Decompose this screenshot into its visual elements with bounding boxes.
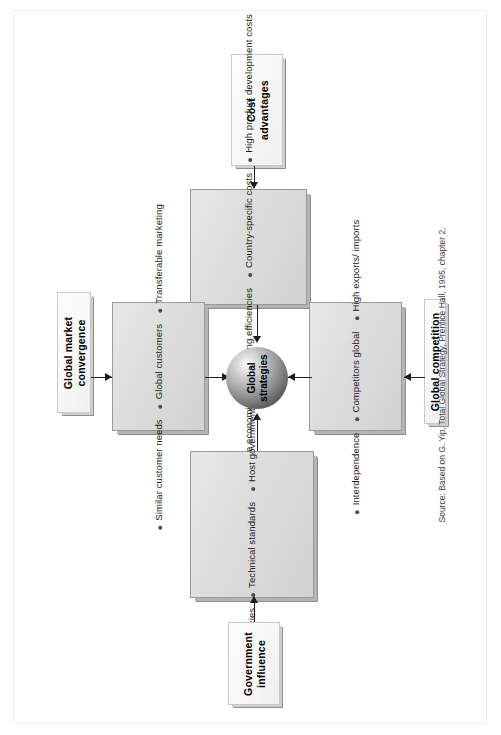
driver-panel-global-competition: Interdependence Competitors global High … bbox=[309, 302, 402, 431]
list-item: High product development costs bbox=[243, 14, 255, 162]
arrowhead-government-to-panel bbox=[250, 596, 258, 603]
bullet-icon bbox=[251, 487, 255, 491]
bullet-icon bbox=[355, 417, 359, 421]
list-item: Similar customer needs bbox=[153, 419, 165, 529]
driver-label-cost-advantages: Cost advantages bbox=[231, 54, 283, 166]
driver-panel-global-market-convergence: Similar customer needs Global customers … bbox=[112, 302, 205, 431]
list-item: High exports/ imports bbox=[350, 219, 362, 320]
list-item: Competitors global bbox=[350, 331, 362, 421]
driver-label-text-government-influence: Government influence bbox=[242, 632, 267, 696]
list-item: Technical standards bbox=[246, 502, 258, 597]
bullet-icon bbox=[158, 525, 162, 529]
driver-items-global-market-convergence: Similar customer needs Global customers … bbox=[153, 204, 165, 530]
list-item: Country-specific costs bbox=[243, 173, 255, 277]
bullet-icon bbox=[248, 273, 252, 277]
driver-label-text-global-market-convergence: Global market convergence bbox=[62, 316, 87, 389]
arrowhead-cost-to-center bbox=[253, 336, 261, 343]
bullet-icon bbox=[158, 404, 162, 408]
arrowhead-competition-to-panel bbox=[404, 373, 411, 381]
driver-items-global-competition: Interdependence Competitors global High … bbox=[350, 219, 362, 514]
source-note: Source: Based on G. Yip, Total Global St… bbox=[437, 223, 448, 523]
driver-panel-government-influence: Trade policies Technical standards Host … bbox=[190, 451, 314, 598]
arrowhead-convergence-to-panel bbox=[105, 373, 112, 381]
list-item: Global customers bbox=[153, 323, 165, 408]
list-item: Transferable marketing bbox=[153, 204, 165, 313]
driver-label-global-market-convergence: Global market convergence bbox=[57, 292, 91, 413]
center-node-sphere: Global strategies bbox=[226, 347, 288, 409]
list-item: Interdependence bbox=[350, 432, 362, 514]
connector-cost-to-center bbox=[257, 305, 258, 340]
bullet-icon bbox=[355, 316, 359, 320]
center-node-label: Global strategies bbox=[246, 354, 269, 401]
driver-panel-cost-advantages: Scale economies Sourcing efficiencies Co… bbox=[190, 189, 307, 305]
figure-page: Cost advantages Scale economies Sourcing… bbox=[0, 0, 501, 735]
bullet-icon bbox=[248, 158, 252, 162]
bullet-icon bbox=[158, 308, 162, 312]
driver-label-government-influence: Government influence bbox=[228, 622, 280, 705]
arrowhead-competition-to-center bbox=[288, 373, 295, 381]
bullet-icon bbox=[355, 510, 359, 514]
